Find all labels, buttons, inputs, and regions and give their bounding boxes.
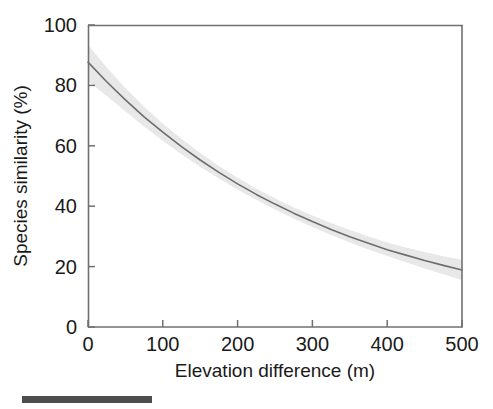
x-tick-label-300: 300 [296, 333, 329, 355]
figure-container: 0100200300400500 020406080100 Elevation … [0, 0, 493, 409]
y-tick-label-40: 40 [55, 195, 77, 217]
y-tick-label-80: 80 [55, 74, 77, 96]
y-tick-label-20: 20 [55, 256, 77, 278]
y-axis-tick-labels: 020406080100 [44, 14, 77, 338]
x-axis-ticks [88, 320, 462, 327]
x-axis-tick-labels: 0100200300400500 [82, 333, 478, 355]
species-similarity-chart: 0100200300400500 020406080100 Elevation … [0, 0, 493, 409]
x-tick-label-400: 400 [371, 333, 404, 355]
scale-bar [22, 396, 152, 403]
y-tick-label-100: 100 [44, 14, 77, 36]
axis-frame [88, 25, 463, 328]
x-axis-title: Elevation difference (m) [175, 360, 375, 381]
fitted-curve-line [88, 62, 462, 270]
y-axis-title: Species similarity (%) [10, 85, 31, 267]
x-tick-label-500: 500 [445, 333, 478, 355]
confidence-band [88, 45, 462, 280]
y-tick-label-60: 60 [55, 135, 77, 157]
y-tick-label-0: 0 [66, 316, 77, 338]
x-tick-label-200: 200 [221, 333, 254, 355]
x-tick-label-100: 100 [146, 333, 179, 355]
x-tick-label-0: 0 [82, 333, 93, 355]
